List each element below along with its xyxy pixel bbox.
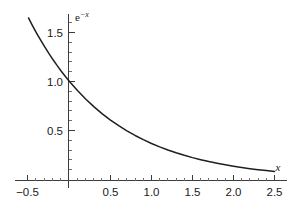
x-axis-label: x: [275, 161, 281, 173]
x-tick-label: 2.0: [226, 186, 242, 198]
y-tick-label: 1.0: [47, 76, 63, 88]
x-tick-label: −0.5: [16, 186, 39, 198]
x-tick-label: 1.0: [144, 186, 160, 198]
x-tick-label: 1.5: [185, 186, 201, 198]
plot-canvas: −0.5 0.5 1.0 1.5 2.0 2.5 x: [0, 0, 300, 210]
y-axis-label-exponent: −x: [80, 10, 89, 19]
y-tick-label: 0.5: [47, 125, 63, 137]
y-tick-label: 1.5: [47, 27, 63, 39]
x-tick-label: 0.5: [103, 186, 119, 198]
x-tick-label: 2.5: [267, 186, 283, 198]
exponential-decay-plot: −0.5 0.5 1.0 1.5 2.0 2.5 x: [0, 0, 300, 210]
plot-background: [0, 0, 300, 210]
